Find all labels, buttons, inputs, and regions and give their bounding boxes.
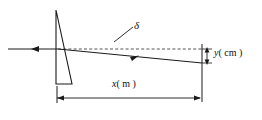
x-label: x( m ) bbox=[112, 78, 136, 89]
y-unit: ( cm ) bbox=[218, 47, 242, 58]
deviated-ray bbox=[58, 49, 202, 63]
diagram-canvas bbox=[0, 0, 262, 120]
y-label: y( cm ) bbox=[214, 47, 242, 58]
x-arrow-right bbox=[194, 95, 201, 100]
deviation-angle-label: δ bbox=[134, 19, 139, 31]
deviation-angle-leader bbox=[114, 27, 133, 42]
incident-ray bbox=[8, 46, 58, 52]
y-arrow-up bbox=[205, 47, 210, 53]
x-unit: ( m ) bbox=[116, 78, 135, 89]
x-dimension bbox=[57, 95, 201, 100]
delta-symbol: δ bbox=[134, 19, 139, 31]
optics-figure: δ y( cm ) x( m ) bbox=[0, 0, 262, 120]
wedge-prism bbox=[56, 10, 72, 84]
incident-ray-arrowhead bbox=[31, 46, 39, 52]
y-dimension bbox=[202, 47, 212, 65]
y-arrow-down bbox=[205, 60, 210, 66]
x-arrow-left bbox=[57, 95, 64, 100]
